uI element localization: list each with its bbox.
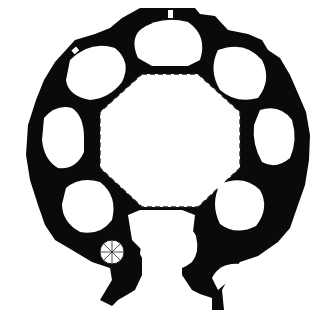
chapel-bottom-right	[215, 180, 264, 230]
entrance-vestibule	[140, 222, 197, 270]
floor-plan	[0, 0, 330, 315]
window-top	[168, 10, 173, 18]
spiral-stair-icon	[100, 240, 124, 264]
chapel-right	[254, 108, 295, 165]
chapel-left	[42, 107, 84, 168]
